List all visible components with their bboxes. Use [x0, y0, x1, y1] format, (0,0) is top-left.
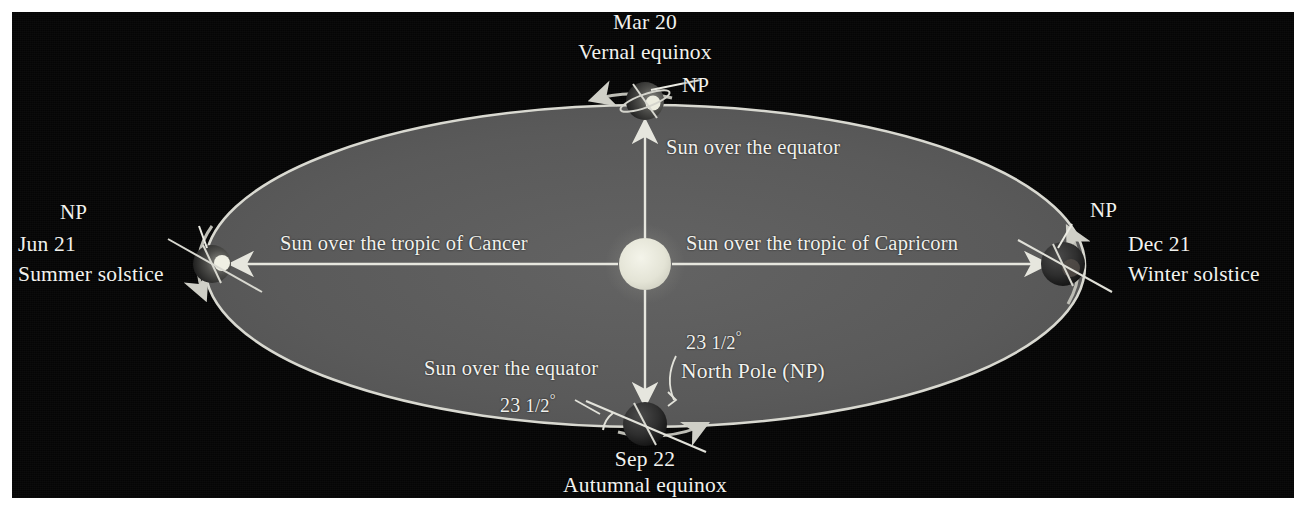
label-sun-over-equator-top: Sun over the equator: [666, 136, 840, 160]
label-sun-over-cancer: Sun over the tropic of Cancer: [280, 232, 528, 256]
label-vernal-equinox: Vernal equinox: [497, 40, 793, 65]
label-sun-over-capricorn: Sun over the tropic of Capricorn: [686, 232, 958, 256]
label-np-winter: NP: [1090, 198, 1117, 223]
angle-left-fraction: 1/2: [526, 396, 550, 416]
label-sun-over-equator-bottom: Sun over the equator: [424, 357, 598, 381]
sun-disc: [619, 238, 671, 290]
label-summer-solstice: Summer solstice: [18, 262, 164, 287]
angle-left-value: 23: [500, 394, 520, 416]
label-winter-solstice: Winter solstice: [1128, 262, 1260, 287]
angle-right-fraction: 1/2: [712, 333, 736, 353]
label-autumnal-equinox: Autumnal equinox: [497, 473, 793, 498]
orbit-diagram-svg: [0, 0, 1294, 514]
label-jun21-date: Jun 21: [18, 232, 76, 257]
angle-left-degree: °: [550, 391, 556, 407]
angle-right-degree: °: [736, 328, 742, 344]
label-np-summer: NP: [60, 200, 87, 225]
angle-right-value: 23: [686, 331, 706, 353]
angle-label-right: 23 1/2°: [686, 328, 742, 354]
label-dec21-date: Dec 21: [1128, 232, 1191, 257]
label-sep22-date: Sep 22: [497, 447, 793, 472]
label-north-pole-full: North Pole (NP): [681, 359, 825, 384]
seasons-orbit-figure: Mar 20 Vernal equinox NP Sun over the eq…: [0, 0, 1294, 514]
angle-label-left: 23 1/2°: [500, 391, 556, 417]
label-mar20-date: Mar 20: [497, 10, 793, 35]
label-np-vernal: NP: [682, 73, 709, 98]
